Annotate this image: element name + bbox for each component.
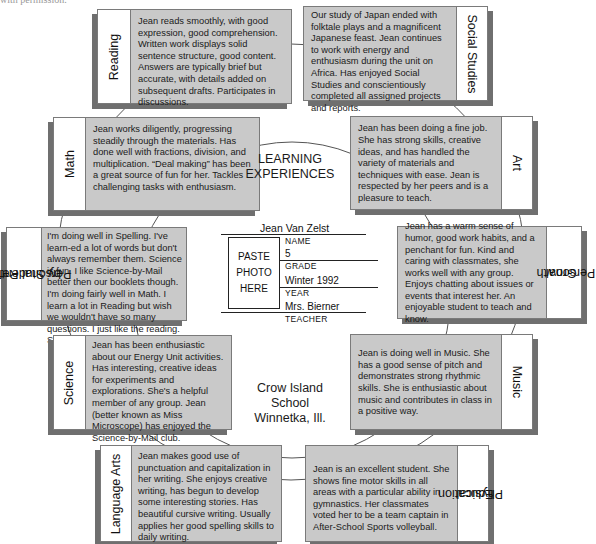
label-personal-reflection: Personal Reflectionby Student xyxy=(7,228,42,320)
card-physical-education: Jean is an excellent student. She shows … xyxy=(305,445,489,542)
label-language-arts: Language Arts xyxy=(101,446,132,541)
label-physical-education: PhysicalEducation xyxy=(457,446,488,541)
school-name: Crow Island School Winnetka, Ill. xyxy=(225,381,355,426)
card-music: Jean is doing well in Music. She has a g… xyxy=(350,334,533,430)
comment-language-arts: Jean makes good use of punctuation and c… xyxy=(132,446,281,541)
comment-reading: Jean reads smoothly, with good expressio… xyxy=(131,10,291,103)
label-math: Math xyxy=(54,118,86,210)
teacher-caption: TEACHER xyxy=(285,314,328,324)
comment-social-studies: Our study of Japan ended with folktale p… xyxy=(304,7,456,100)
label-music: Music xyxy=(501,335,532,429)
card-science: Science Jean has been enthusiastic about… xyxy=(53,335,232,430)
label-science: Science xyxy=(54,336,86,429)
label-personal-growth: PersonalGrowth xyxy=(546,227,581,318)
label-art: Art xyxy=(501,117,532,209)
label-reading: Reading xyxy=(98,10,131,103)
grade-caption: GRADE xyxy=(285,261,317,271)
label-social-studies: Social Studies xyxy=(456,7,487,100)
grade-field: 5 xyxy=(285,248,291,260)
comment-personal-growth: Jean has a warm sense of humor, good wor… xyxy=(398,227,546,318)
card-language-arts: Language Arts Jean makes good use of pun… xyxy=(100,445,282,542)
card-personal-growth: Jean has a warm sense of humor, good wor… xyxy=(397,226,582,319)
teacher-rule xyxy=(221,312,366,313)
name-rule xyxy=(221,234,366,235)
card-social-studies: Our study of Japan ended with folktale p… xyxy=(303,6,488,101)
comment-music: Jean is doing well in Music. She has a g… xyxy=(351,335,501,429)
card-reading: Reading Jean reads smoothly, with good e… xyxy=(97,9,292,104)
comment-science: Jean has been enthusiastic about our Ene… xyxy=(86,336,231,429)
card-personal-reflection: Personal Reflectionby Student I'm doing … xyxy=(6,227,187,321)
card-math: Math Jean works diligently, progressing … xyxy=(53,117,260,211)
comment-art: Jean has been doing a fine job. She has … xyxy=(351,117,501,209)
learning-experiences-title: LEARNING EXPERIENCES xyxy=(230,152,350,182)
card-art: Jean has been doing a fine job. She has … xyxy=(350,116,533,210)
comment-physical-education: Jean is an excellent student. She shows … xyxy=(306,446,457,541)
name-field: Jean Van Zelst xyxy=(260,222,329,234)
year-field: Winter 1992 xyxy=(285,275,339,287)
photo-placeholder: PASTE PHOTO HERE xyxy=(228,237,280,309)
year-caption: YEAR xyxy=(285,288,309,298)
name-caption: NAME xyxy=(285,236,311,246)
